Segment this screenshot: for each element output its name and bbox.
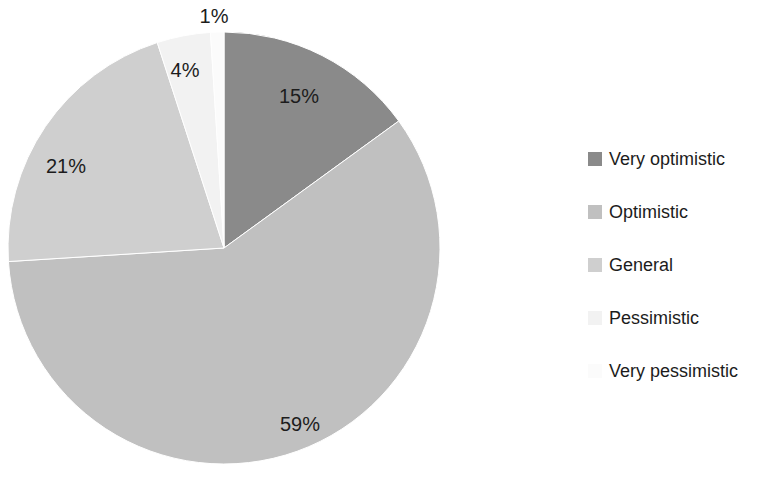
legend-item[interactable]: Pessimistic <box>588 305 699 331</box>
pie-chart: 15%59%21%4%1% Very optimisticOptimisticG… <box>0 0 779 484</box>
legend-swatch-icon <box>588 311 602 325</box>
pie-svg <box>0 0 470 484</box>
legend-swatch-icon <box>588 152 602 166</box>
legend-item[interactable]: Optimistic <box>588 199 688 225</box>
legend-item[interactable]: Very optimistic <box>588 146 725 172</box>
legend-item-label: Optimistic <box>609 202 688 222</box>
legend-item[interactable]: General <box>588 252 673 278</box>
legend-swatch-icon <box>588 205 602 219</box>
pie-value-label: 15% <box>279 86 319 106</box>
legend-item[interactable]: Very pessimistic <box>588 358 738 384</box>
legend-item-label: Very optimistic <box>609 149 725 169</box>
pie-value-label: 4% <box>171 60 200 80</box>
chart-legend: Very optimisticOptimisticGeneralPessimis… <box>588 146 779 370</box>
pie-value-label: 21% <box>46 156 86 176</box>
pie-value-label: 1% <box>200 6 229 26</box>
pie-plot-area: 15%59%21%4%1% <box>0 0 470 484</box>
legend-item-label: General <box>609 255 673 275</box>
legend-swatch-icon <box>588 258 602 272</box>
pie-value-label: 59% <box>280 414 320 434</box>
legend-item-label: Very pessimistic <box>609 361 738 381</box>
legend-swatch-icon <box>588 364 602 378</box>
pie-slices <box>8 32 440 464</box>
legend-item-label: Pessimistic <box>609 308 699 328</box>
